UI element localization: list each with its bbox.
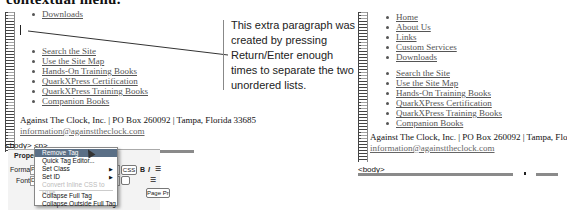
list-item[interactable]: QuarkXPress Certification [30,76,148,86]
menu-item-collapse-full-tag[interactable]: Collapse Full Tag [35,192,117,200]
list-item[interactable]: QuarkXPress Training Books [30,86,148,96]
page-properties-button[interactable]: Page Prop [146,188,170,198]
list-item[interactable]: Custom Services [384,42,457,52]
list-item[interactable]: Hands-On Training Books [30,66,148,76]
context-menu: Remove Tag Quick Tag Editor... Set Class… [34,147,118,206]
bold-button[interactable]: B [140,166,145,173]
menu-separator [39,190,113,191]
footer-email-link[interactable]: information@againsttheclock.com [370,143,495,153]
list-item[interactable]: Use the Site Map [30,56,148,66]
menu-item-quick-tag-editor[interactable]: Quick Tag Editor... [35,157,117,165]
font-label: Font [16,177,30,184]
italic-button[interactable]: I [148,166,150,173]
footer-email-link[interactable]: information@againsttheclock.com [20,126,145,136]
status-bar-segment [536,173,558,176]
list-item[interactable]: Companion Books [384,118,502,128]
format-label: Format [10,166,32,173]
list-item[interactable]: Hands-On Training Books [384,88,502,98]
status-bar [358,173,513,176]
list-item[interactable]: Home [384,12,457,22]
list-item[interactable]: Search the Site [384,68,502,78]
list-item[interactable]: About Us [384,22,457,32]
css-button[interactable]: CSS [121,165,137,175]
menu-item-collapse-outside-full-tag[interactable]: Collapse Outside Full Tag [35,200,117,208]
menu-item-remove-tag[interactable]: Remove Tag [35,149,117,157]
list-item[interactable]: Downloads [384,52,457,62]
footer-address: Against The Clock, Inc. | PO Box 260092 … [20,115,256,125]
menu-item-set-class[interactable]: Set Class▶ [35,165,117,173]
right-list-1: Home About Us Links Custom Services Down… [384,12,457,62]
callout-bracket [223,20,224,90]
submenu-arrow-icon: ▶ [109,165,113,173]
text-color-swatch[interactable] [121,176,130,185]
footer-address: Against The Clock, Inc. | PO Box 260092 … [370,132,567,142]
list-item[interactable]: Search the Site [30,46,148,56]
vertical-ruler-right [358,12,368,162]
left-link-list: Search the Site Use the Site Map Hands-O… [30,46,148,106]
list-item[interactable]: Links [384,32,457,42]
menu-item-set-id[interactable]: Set ID▶ [35,173,117,181]
list-item[interactable]: Companion Books [30,96,148,106]
callout-text: This extra paragraph was created by pres… [231,18,356,93]
submenu-arrow-icon: ▶ [109,173,113,181]
list-item[interactable]: QuarkXPress Certification [384,98,502,108]
menu-item-convert-inline-css: Convert Inline CSS to Rule [35,181,117,189]
list-item[interactable]: QuarkXPress Training Books [384,108,502,118]
right-list-2: Search the Site Use the Site Map Hands-O… [384,68,502,128]
list-item[interactable]: Use the Site Map [384,78,502,88]
align-left-icon[interactable]: ☰ [155,165,161,173]
status-bar-marker [524,172,526,175]
unordered-list-icon[interactable]: ☰ [150,176,156,184]
